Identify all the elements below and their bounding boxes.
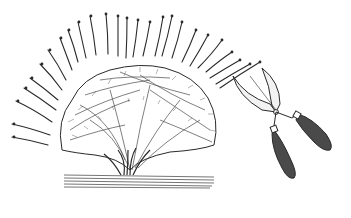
- lavender-bush: [60, 65, 216, 175]
- lavender-pruning-illustration: [0, 0, 351, 218]
- ground-lines: [64, 175, 214, 188]
- hedge-shears: [233, 68, 331, 178]
